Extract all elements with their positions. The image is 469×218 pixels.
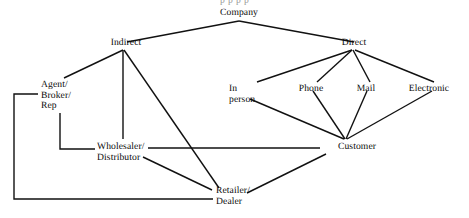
node-direct: Direct [342, 38, 367, 49]
node-indirect: Indirect [111, 38, 142, 49]
node-mail: Mail [357, 84, 376, 95]
edge-phone-customer [313, 91, 345, 139]
channel-structure-diagram: p p p p CompanyIndirectDirectAgent/ Brok… [0, 0, 469, 218]
edge-inperson-customer [250, 99, 344, 139]
edge-customer-retailer [247, 154, 326, 193]
edge-mail-customer [346, 91, 367, 139]
edge-company-indirect [127, 21, 239, 42]
node-customer: Customer [338, 142, 376, 153]
edge-agent-wholesaler [60, 113, 95, 149]
edge-company-direct [239, 21, 354, 42]
node-company: Company [220, 8, 258, 19]
edge-indirect-agent [64, 50, 123, 78]
node-phone: Phone [299, 84, 323, 95]
edge-electronic-customer [347, 91, 432, 139]
node-agent: Agent/ Broker/ Rep [41, 80, 71, 112]
edge-indirect-retailer [124, 50, 219, 188]
node-wholesaler: Wholesaler/ Distributor [97, 142, 144, 163]
edge-direct-phone [317, 50, 352, 82]
node-retailer: Retailer/ Dealer [216, 186, 250, 207]
edge-direct-inperson [257, 50, 352, 82]
node-inperson: In person [229, 84, 255, 105]
node-electronic: Electronic [409, 84, 449, 95]
